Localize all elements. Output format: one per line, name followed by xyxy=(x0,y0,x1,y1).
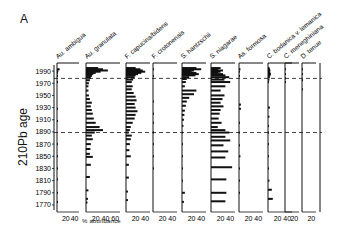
taxon-label: Au. ambigua xyxy=(54,31,87,61)
x-tick-label: 20 xyxy=(188,215,196,222)
x-tick-label: 40 xyxy=(226,215,234,222)
y-tick-label: 1790 xyxy=(35,189,51,196)
taxon-column: 2040Au. ambigua xyxy=(54,31,87,222)
x-tick-label: 20 xyxy=(62,215,70,222)
taxon-column: 2040S. niagarae xyxy=(208,33,239,222)
x-tick-label: 40 xyxy=(168,215,176,222)
x-tick-label: 20 xyxy=(217,215,225,222)
x-tick-label: 20 xyxy=(290,215,298,222)
y-tick-label: 1830 xyxy=(35,165,51,172)
x-tick-label: 20 xyxy=(307,215,315,222)
taxon-column: 20D. tenue xyxy=(299,38,323,222)
x-tick-label: 40 xyxy=(102,215,110,222)
x-tick-label: 40 xyxy=(141,215,149,222)
y-tick-label: 1770 xyxy=(35,201,51,208)
x-tick-label: 40 xyxy=(197,215,205,222)
taxon-column: 204060Au. granulata xyxy=(83,29,120,222)
x-tick-label: 40 xyxy=(254,215,262,222)
taxon-column: 2040As. formosa xyxy=(236,32,267,222)
x-tick-label: 40 xyxy=(71,215,79,222)
x-tick-label: 20 xyxy=(132,215,140,222)
x-tick-label: 60 xyxy=(111,215,119,222)
y-tick-label: 1890 xyxy=(35,128,51,135)
y-tick-label: 1910 xyxy=(35,116,51,123)
taxon-label: Au. granulata xyxy=(83,29,118,60)
y-tick-label: 1930 xyxy=(35,104,51,111)
y-tick-label: 1950 xyxy=(35,92,51,99)
taxon-label: As. formosa xyxy=(236,32,267,60)
taxon-label: S. niagarae xyxy=(208,33,239,61)
taxon-column: 2040S. hantzschii xyxy=(179,31,212,222)
x-tick-label: 20 xyxy=(274,215,282,222)
x-tick-label: 20 xyxy=(159,215,167,222)
x-tick-label: 20 xyxy=(92,215,100,222)
y-tick-label: 1810 xyxy=(35,177,51,184)
y-tick-label: 1850 xyxy=(35,153,51,160)
x-tick-label: 20 xyxy=(245,215,253,222)
taxon-label: F. capucina/bidens xyxy=(123,19,170,60)
y-tick-label: 1870 xyxy=(35,141,51,148)
stratigraphic-diagram: 1990197019501930191018901870185018301810… xyxy=(0,0,356,240)
y-tick-label: 1970 xyxy=(35,80,51,87)
y-tick-label: 1990 xyxy=(35,68,51,75)
